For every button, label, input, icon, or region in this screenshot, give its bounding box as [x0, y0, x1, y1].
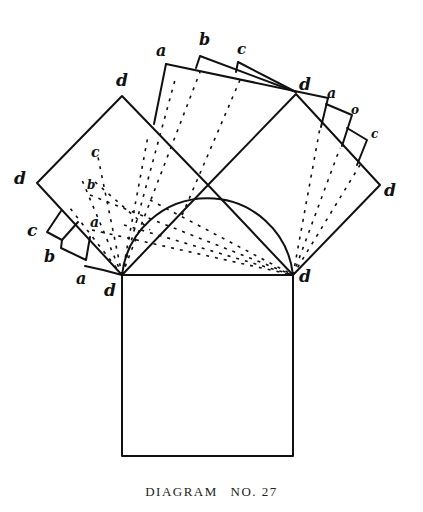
- label-inner-a: a: [90, 214, 99, 230]
- diagram-caption: DIAGRAM NO. 27: [0, 484, 423, 500]
- semicircle: [122, 198, 293, 275]
- top-rect-c: [236, 62, 296, 92]
- label-left-rect-c: c: [27, 220, 38, 240]
- label-left-rect-b: b: [44, 247, 55, 266]
- label-right-rect-b: o: [351, 103, 359, 117]
- label-top-rect-a: a: [156, 41, 166, 60]
- right-square: [208, 94, 380, 275]
- label-top-rect-c: c: [237, 40, 246, 58]
- label-right-rect-a: a: [327, 85, 336, 101]
- left-rect-c: [47, 211, 78, 240]
- right-rect-a: [321, 98, 328, 127]
- geometry-diagram: d d d d d d a b c a o c a b c c b a: [0, 0, 423, 480]
- label-left-rect-a: a: [76, 269, 86, 288]
- label-left-square-top: d: [116, 70, 128, 90]
- label-inner-c: c: [91, 144, 100, 160]
- bottom-square: [122, 275, 293, 456]
- left-rect-b: [61, 237, 90, 260]
- label-inner-b: b: [87, 178, 95, 192]
- label-top-rect-b: b: [199, 30, 210, 49]
- caption-title: DIAGRAM: [145, 484, 218, 499]
- label-left-square-left: d: [14, 168, 26, 188]
- label-right-rect-c: c: [371, 127, 379, 141]
- label-top-left-corner: d: [104, 280, 116, 300]
- label-right-square-top: d: [299, 74, 311, 94]
- label-top-right-corner: d: [299, 266, 311, 286]
- label-right-square-right: d: [384, 180, 396, 200]
- caption-number: NO. 27: [231, 484, 278, 499]
